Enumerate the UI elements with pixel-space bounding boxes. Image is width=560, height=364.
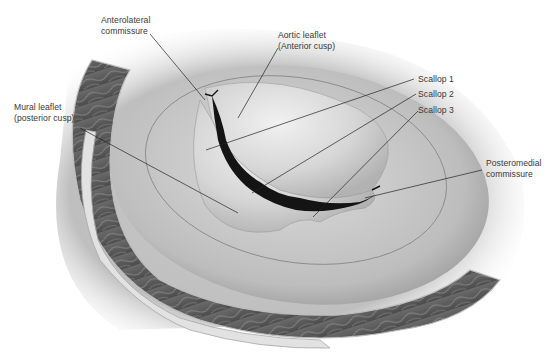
label-posteromedial-commissure: Posteromedial commissure <box>486 158 542 179</box>
label-scallop-1: Scallop 1 <box>418 74 454 85</box>
valve-drawing <box>0 0 560 364</box>
mitral-valve-illustration: Anterolateral commissure Aortic leaflet … <box>0 0 560 364</box>
label-scallop-3: Scallop 3 <box>418 105 454 116</box>
label-aortic-leaflet: Aortic leaflet (Anterior cusp) <box>278 30 335 51</box>
label-mural-leaflet: Mural leaflet (posterior cusp) <box>14 102 75 123</box>
label-scallop-2: Scallop 2 <box>418 89 454 100</box>
label-anterolateral-commissure: Anterolateral commissure <box>101 15 150 36</box>
